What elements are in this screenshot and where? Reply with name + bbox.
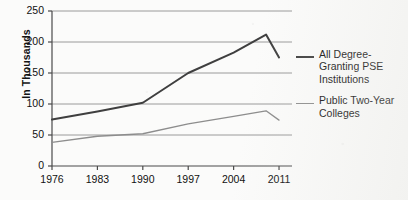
x-tick-label: 1983 <box>77 173 117 185</box>
legend-line-swatch-icon <box>296 98 314 108</box>
axis-lines-group <box>52 11 292 166</box>
tick-marks-group <box>48 11 279 170</box>
series-line-0 <box>52 35 279 120</box>
x-tick-label: 1997 <box>168 173 208 185</box>
data-series-group <box>52 35 279 143</box>
x-tick-label: 1990 <box>123 173 163 185</box>
legend-entry: All Degree-Granting PSE Institutions <box>296 48 408 85</box>
chart-figure: In Thousands 250200150100500 19761983199… <box>0 0 408 200</box>
y-tick-label: 0 <box>14 159 44 171</box>
legend-label: All Degree-Granting PSE Institutions <box>319 48 408 85</box>
chart-legend: All Degree-Granting PSE InstitutionsPubl… <box>296 48 408 128</box>
x-tick-label: 2011 <box>259 173 299 185</box>
y-tick-label: 100 <box>14 97 44 109</box>
y-tick-label: 200 <box>14 35 44 47</box>
gridlines-group <box>52 11 292 135</box>
x-tick-label: 1976 <box>32 173 72 185</box>
y-tick-label: 150 <box>14 66 44 78</box>
x-tick-label: 2004 <box>214 173 254 185</box>
series-line-1 <box>52 111 279 143</box>
y-tick-label: 50 <box>14 128 44 140</box>
y-tick-label: 250 <box>14 4 44 16</box>
legend-entry: Public Two-Year Colleges <box>296 94 408 119</box>
legend-line-swatch-icon <box>296 52 314 62</box>
legend-label: Public Two-Year Colleges <box>319 94 408 119</box>
